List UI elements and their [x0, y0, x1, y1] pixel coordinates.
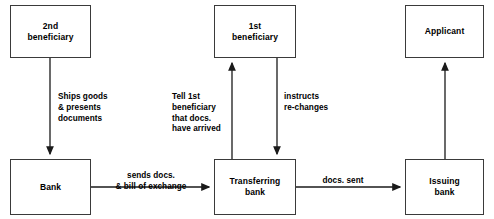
- node-issuing-bank-label: Issuing bank: [429, 176, 459, 198]
- node-bank-label: Bank: [40, 182, 61, 193]
- node-second-beneficiary-label: 2nd beneficiary: [28, 21, 74, 43]
- flow-diagram: 2nd beneficiary 1st beneficiary Applican…: [0, 0, 494, 219]
- node-issuing-bank[interactable]: Issuing bank: [405, 159, 484, 215]
- node-transferring-bank[interactable]: Transferring bank: [214, 159, 296, 215]
- edge-label-ships-goods: Ships goods & presents documents: [58, 92, 108, 124]
- node-bank[interactable]: Bank: [10, 159, 91, 215]
- edge-label-tell-first-beneficiary: Tell 1st beneficiary that docs. have arr…: [172, 92, 221, 135]
- edge-label-sends-docs: sends docs. & bill of exchange: [99, 171, 203, 193]
- edge-label-instructs-re-changes: instructs re-changes: [284, 92, 328, 114]
- node-transferring-bank-label: Transferring bank: [230, 176, 281, 198]
- edge-label-docs-sent: docs. sent: [303, 176, 383, 187]
- node-first-beneficiary[interactable]: 1st beneficiary: [214, 5, 296, 58]
- node-applicant[interactable]: Applicant: [405, 5, 484, 58]
- node-second-beneficiary[interactable]: 2nd beneficiary: [10, 5, 91, 58]
- node-first-beneficiary-label: 1st beneficiary: [232, 21, 278, 43]
- node-applicant-label: Applicant: [425, 26, 465, 37]
